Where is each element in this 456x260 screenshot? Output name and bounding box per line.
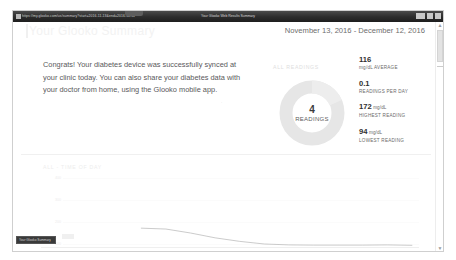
browser-tab[interactable]: [125, 11, 143, 16]
window-controls: [416, 13, 441, 19]
stat-readings-per-day-caption: READINGS PER DAY: [359, 88, 443, 95]
browser-window: https://my.glooko.com/us/summary?start=2…: [12, 10, 444, 252]
stat-highest-reading-value: 172: [359, 102, 372, 111]
page-viewport: Your Glooko Summary November 13, 2016 - …: [13, 22, 443, 251]
time-of-day-plot: 400 300 200 100: [41, 178, 419, 251]
taskbar-secondary-item: [62, 234, 74, 239]
section-divider: [41, 247, 419, 248]
chevron-down-icon[interactable]: ▼: [437, 245, 443, 251]
glucose-line-series: [63, 178, 419, 251]
page-title: Your Glooko Summary: [29, 23, 155, 39]
address-bar-url: https://my.glooko.com/us/summary?start=2…: [22, 14, 135, 19]
scrollbar-mark: [437, 66, 443, 67]
brand-accent-bar: [26, 24, 28, 38]
chart-title: ALL - TIME OF DAY: [43, 164, 102, 170]
chevron-up-icon[interactable]: ▲: [437, 22, 443, 28]
favicon-icon: [16, 14, 21, 19]
readings-count: 4: [309, 104, 315, 115]
readings-count-label: READINGS: [295, 116, 329, 123]
readings-donut-chart: 4 READINGS: [279, 80, 345, 146]
stat-readings-per-day-value: 0.1: [359, 79, 370, 88]
y-axis-tick: 400: [41, 176, 61, 180]
taskbar-window-button[interactable]: Your Glooko Summary: [16, 236, 56, 244]
all-readings-label: ALL READINGS: [273, 64, 319, 70]
maximize-icon[interactable]: [427, 13, 433, 19]
stat-lowest-reading-unit: mg/dL: [369, 128, 382, 137]
desktop-background: https://my.glooko.com/us/summary?start=2…: [0, 0, 456, 260]
page-header: Your Glooko Summary November 13, 2016 - …: [13, 22, 435, 42]
y-axis-tick: 200: [41, 220, 61, 224]
stat-highest-reading: 172 mg/dL HIGHEST READING: [359, 102, 443, 119]
stat-highest-reading-unit: mg/dL: [373, 103, 386, 112]
message-footnote: ·: [221, 100, 222, 105]
stat-readings-per-day: 0.1 READINGS PER DAY: [359, 79, 443, 95]
vertical-scrollbar[interactable]: ▲ ▼: [435, 22, 443, 251]
taskbar-window-label: Your Glooko Summary: [19, 238, 51, 243]
date-range-label: November 13, 2016 - December 12, 2016: [285, 25, 425, 36]
stat-average-caption: mg/dL AVERAGE: [359, 64, 443, 71]
stats-list: 116 mg/dL AVERAGE 0.1 READINGS PER DAY: [359, 55, 443, 151]
stat-lowest-reading-value: 94: [359, 127, 367, 136]
stat-highest-reading-caption: HIGHEST READING: [359, 112, 443, 119]
close-icon[interactable]: [435, 13, 441, 19]
y-axis-tick: 300: [41, 198, 61, 202]
page-content: Your Glooko Summary November 13, 2016 - …: [13, 22, 435, 251]
stat-lowest-reading: 94 mg/dL LOWEST READING: [359, 127, 443, 144]
summary-card: Congrats! Your diabetes device was succe…: [21, 42, 431, 155]
browser-title-bar: https://my.glooko.com/us/summary?start=2…: [13, 11, 443, 22]
stat-average-value: 116: [359, 55, 371, 64]
stat-lowest-reading-caption: LOWEST READING: [359, 137, 443, 144]
minimize-icon[interactable]: [416, 13, 425, 19]
stat-average: 116 mg/dL AVERAGE: [359, 55, 443, 71]
sync-message-text: Congrats! Your diabetes device was succe…: [43, 59, 248, 97]
time-of-day-chart-section: ALL - TIME OF DAY 400 300 200 100: [21, 156, 431, 251]
donut-center-text: 4 READINGS: [279, 80, 345, 146]
address-bar[interactable]: https://my.glooko.com/us/summary?start=2…: [16, 13, 135, 20]
scrollbar-thumb[interactable]: [437, 30, 443, 62]
